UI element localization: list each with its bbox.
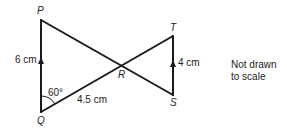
note-line-2: to scale <box>231 71 277 83</box>
length-label-pq: 6 cm <box>15 55 37 65</box>
point-label-s: S <box>170 98 177 108</box>
length-label-ts: 4 cm <box>178 58 200 68</box>
angle-label-q: 60° <box>48 88 63 98</box>
point-label-p: P <box>37 6 44 16</box>
point-label-t: T <box>170 23 176 33</box>
parallel-arrow-ts-icon <box>170 60 176 67</box>
segment-ps <box>41 20 173 95</box>
parallel-arrow-pq-icon <box>38 57 44 64</box>
length-label-qr: 4.5 cm <box>77 95 107 105</box>
not-to-scale-note: Not drawn to scale <box>231 59 277 83</box>
point-label-r: R <box>118 70 125 80</box>
note-line-1: Not drawn <box>231 59 277 71</box>
point-label-q: Q <box>37 116 45 126</box>
